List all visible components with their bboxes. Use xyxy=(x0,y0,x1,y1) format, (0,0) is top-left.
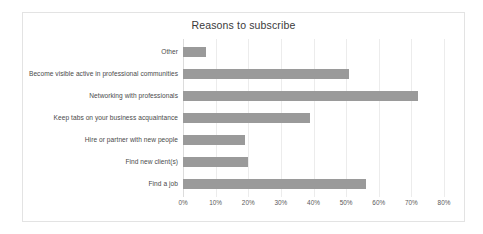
bar-series: OtherBecome visible active in profession… xyxy=(23,39,466,197)
x-axis-tick-label: 30% xyxy=(274,199,287,206)
bar xyxy=(183,157,248,167)
x-axis-tick-label: 80% xyxy=(438,199,451,206)
x-axis-tick-label: 10% xyxy=(209,199,222,206)
bar-track xyxy=(183,157,444,167)
x-axis: 0%10%20%30%40%50%60%70%80% xyxy=(183,199,444,211)
bar-category-label: Find a job xyxy=(23,179,178,189)
x-axis-tick-label: 0% xyxy=(178,199,187,206)
bar-row: Other xyxy=(23,41,466,63)
bar-track xyxy=(183,47,444,57)
bar-category-label: Other xyxy=(23,47,178,57)
x-axis-tick-label: 20% xyxy=(242,199,255,206)
bar xyxy=(183,135,245,145)
x-axis-tick-label: 40% xyxy=(307,199,320,206)
bar-category-label: Find new client(s) xyxy=(23,157,178,167)
bar-row: Networking with professionals xyxy=(23,85,466,107)
bar-track xyxy=(183,135,444,145)
chart-container: Reasons to subscribe OtherBecome visible… xyxy=(22,12,465,222)
x-axis-tick-label: 70% xyxy=(405,199,418,206)
chart-title: Reasons to subscribe xyxy=(23,19,464,31)
bar-category-label: Keep tabs on your business acquaintance xyxy=(23,113,178,123)
bar-track xyxy=(183,69,444,79)
bar-row: Keep tabs on your business acquaintance xyxy=(23,107,466,129)
bar-track xyxy=(183,91,444,101)
bar-category-label: Become visible active in professional co… xyxy=(23,69,178,79)
bar-row: Find new client(s) xyxy=(23,151,466,173)
bar xyxy=(183,113,310,123)
bar-row: Find a job xyxy=(23,173,466,195)
bar xyxy=(183,179,366,189)
bar-track xyxy=(183,113,444,123)
bar xyxy=(183,47,206,57)
bar xyxy=(183,91,418,101)
bar-row: Hire or partner with new people xyxy=(23,129,466,151)
x-axis-tick-label: 60% xyxy=(372,199,385,206)
bar-category-label: Networking with professionals xyxy=(23,91,178,101)
x-axis-tick-label: 50% xyxy=(340,199,353,206)
bar-track xyxy=(183,179,444,189)
bar-category-label: Hire or partner with new people xyxy=(23,135,178,145)
plot-area: OtherBecome visible active in profession… xyxy=(23,39,466,197)
bar-row: Become visible active in professional co… xyxy=(23,63,466,85)
bar xyxy=(183,69,349,79)
